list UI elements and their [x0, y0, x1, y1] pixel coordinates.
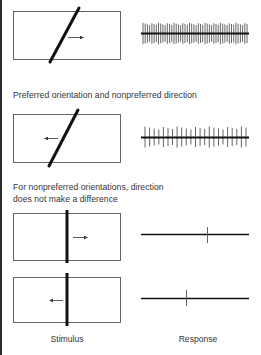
- stimulus-row-4: [14, 273, 121, 326]
- stimulus-column-label: Stimulus: [27, 334, 107, 344]
- stimulus-row-1: [14, 8, 121, 62]
- arrow-right-icon: [68, 36, 84, 39]
- response-row-2: [141, 127, 249, 148]
- stimulus-row-2: [14, 110, 121, 166]
- receptive-field-box: [14, 115, 121, 163]
- arrow-right-icon: [73, 236, 88, 239]
- diagonal-bar-stimulus: [49, 110, 78, 166]
- caption-nonpreferred-line-2: does not make a difference: [13, 194, 118, 206]
- arrow-left-icon: [44, 137, 58, 140]
- response-row-1: [141, 23, 249, 44]
- stimulus-row-3: [14, 210, 121, 263]
- diagonal-bar-stimulus: [50, 8, 79, 62]
- response-column-label: Response: [158, 334, 238, 344]
- diagram-canvas: [0, 0, 261, 355]
- receptive-field-box: [14, 12, 121, 60]
- caption-nonpreferred-line-1: For nonpreferred orientations, direction: [13, 182, 164, 194]
- response-row-3: [141, 227, 249, 243]
- response-row-4: [141, 290, 249, 306]
- caption-preferred-orientation: Preferred orientation and nonpreferred d…: [13, 90, 197, 102]
- arrow-left-icon: [49, 299, 63, 302]
